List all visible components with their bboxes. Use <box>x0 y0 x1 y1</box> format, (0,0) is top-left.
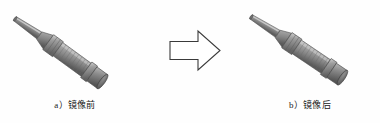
sensor-object-after <box>240 0 380 95</box>
transform-arrow <box>168 28 222 74</box>
caption-before-text: 镜像前 <box>68 100 96 110</box>
panel-before-mirror: a）镜像前 <box>0 0 150 123</box>
caption-after-text: 镜像后 <box>303 100 331 110</box>
panel-after-mirror: b）镜像后 <box>240 0 380 123</box>
block-arrow-right-icon <box>170 31 220 70</box>
sensor-cable <box>249 12 280 37</box>
caption-before-label: a） <box>54 100 68 110</box>
caption-after-label: b） <box>289 100 303 110</box>
caption-after: b）镜像后 <box>240 98 380 111</box>
mirror-comparison-figure: a）镜像前 <box>0 0 380 123</box>
sensor-object-before <box>0 0 150 95</box>
caption-before: a）镜像前 <box>0 98 150 111</box>
